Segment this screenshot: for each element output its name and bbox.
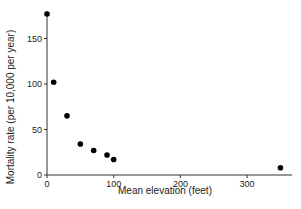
data-point: [78, 141, 84, 147]
y-tick-label: 50: [32, 125, 42, 135]
x-tick-label: 300: [240, 179, 255, 189]
data-point: [91, 148, 97, 154]
data-point: [64, 113, 70, 119]
x-axis-label: Mean elevation (feet): [118, 185, 212, 196]
data-points: [44, 11, 283, 170]
data-point: [278, 165, 284, 171]
y-tick-label: 0: [37, 170, 42, 180]
y-axis-label: Mortality rate (per 10,000 per year): [5, 30, 16, 185]
y-tick-label: 100: [27, 79, 42, 89]
data-point: [111, 157, 117, 163]
x-tick-label: 0: [44, 179, 49, 189]
data-point: [44, 11, 50, 17]
scatter-chart: 0100200300050100150 Mean elevation (feet…: [0, 0, 301, 209]
y-tick-label: 150: [27, 34, 42, 44]
axes: [47, 11, 292, 175]
data-point: [104, 152, 110, 158]
axis-ticks: 0100200300050100150: [27, 34, 255, 190]
data-point: [51, 79, 57, 85]
